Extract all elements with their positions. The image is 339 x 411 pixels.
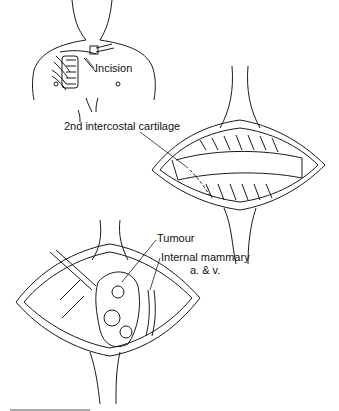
label-mammary-line2: a. & v. — [190, 264, 220, 276]
label-tumour: Tumour — [157, 232, 195, 244]
mammary-leader — [150, 258, 160, 290]
tumour-panel — [16, 220, 200, 404]
tumour-leader — [122, 240, 156, 282]
label-cartilage: 2nd intercostal cartilage — [64, 120, 180, 132]
label-mammary-line1: Internal mammary — [161, 251, 250, 263]
incision-leader — [86, 58, 94, 68]
surgical-illustration — [0, 0, 339, 411]
torso-panel — [33, 0, 156, 122]
label-incision: Incision — [95, 62, 132, 74]
